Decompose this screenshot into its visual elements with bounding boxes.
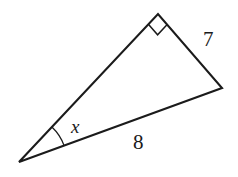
triangle-svg-canvas: 7 8 x bbox=[0, 0, 238, 177]
geometry-figure: 7 8 x bbox=[0, 0, 238, 177]
angle-label-x: x bbox=[70, 116, 80, 137]
side-label-7: 7 bbox=[203, 27, 214, 51]
side-label-8: 8 bbox=[133, 130, 144, 154]
